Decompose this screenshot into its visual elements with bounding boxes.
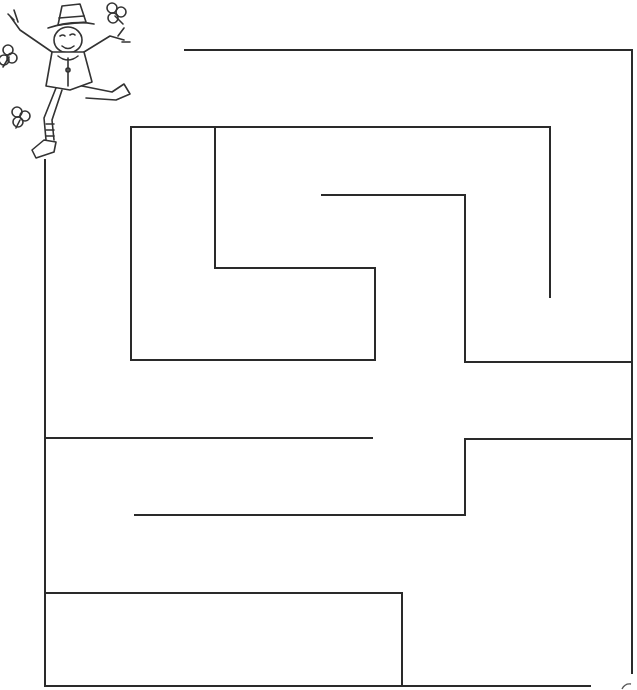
leprechaun-icon xyxy=(0,0,140,165)
shamrock-icon xyxy=(107,3,126,24)
shamrock-icon xyxy=(0,45,17,67)
corner-curl-icon xyxy=(622,684,631,689)
shamrock-icon xyxy=(12,107,30,128)
